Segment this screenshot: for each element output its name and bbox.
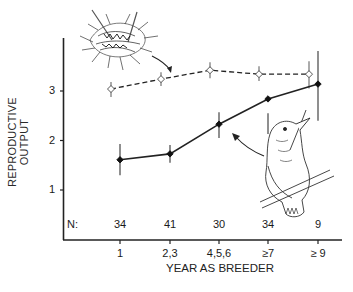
open-diamond-marker	[108, 86, 115, 93]
open-diamond-marker	[207, 67, 214, 74]
filled-diamond-marker	[265, 96, 271, 102]
n-count: 9	[303, 218, 333, 230]
y-tick-label: 1	[41, 183, 55, 195]
open-diamond-marker	[306, 71, 313, 78]
y-tick-label: 2	[41, 134, 55, 146]
y-tick-label: 3	[41, 84, 55, 96]
n-label: N:	[67, 218, 78, 230]
bird-illustration-icon	[260, 110, 334, 217]
series-bird-solid	[117, 51, 321, 175]
filled-diamond-marker	[315, 81, 321, 87]
x-tick-label: 4,5,6	[199, 247, 239, 259]
nest-illustration-icon	[80, 10, 158, 70]
series-nest-dashed	[108, 61, 313, 97]
n-count: 30	[204, 218, 234, 230]
open-diamond-marker	[256, 71, 263, 78]
x-tick-label: 1	[100, 247, 140, 259]
n-count: 41	[155, 218, 185, 230]
series-layer	[108, 51, 322, 175]
bird-arrow-icon	[236, 137, 264, 156]
n-count: 34	[253, 218, 283, 230]
x-axis-label: YEAR AS BREEDER	[100, 262, 340, 274]
x-tick-label: 2,3	[150, 247, 190, 259]
open-diamond-marker	[158, 76, 165, 83]
filled-diamond-marker	[117, 157, 123, 163]
x-tick-label: ≥ 9	[298, 247, 338, 259]
y-axis-label: REPRODUCTIVE OUTPUT	[6, 82, 30, 202]
n-count: 34	[105, 218, 135, 230]
x-tick-label: ≥7	[248, 247, 288, 259]
